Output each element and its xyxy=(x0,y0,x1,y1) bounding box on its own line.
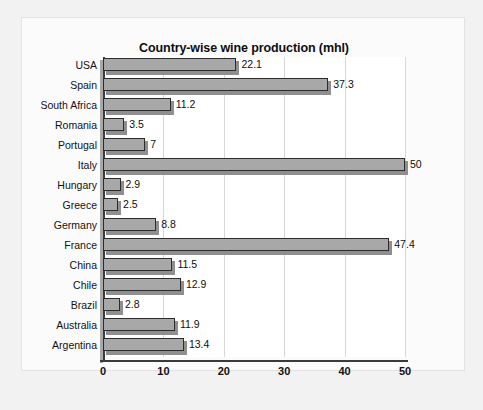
category-label-france: France xyxy=(22,239,97,251)
bar-value-label: 12.9 xyxy=(186,278,206,290)
bar-fill xyxy=(103,258,172,271)
x-tick-40: 40 xyxy=(338,365,350,377)
bar-fill xyxy=(103,298,120,311)
bar-row: Germany8.8 xyxy=(22,217,466,237)
bar-row: Hungary2.9 xyxy=(22,177,466,197)
x-tick-20: 20 xyxy=(218,365,230,377)
bar-china xyxy=(103,258,175,274)
category-label-argentina: Argentina xyxy=(22,339,97,351)
bar-value-label: 3.5 xyxy=(129,118,144,130)
category-label-greece: Greece xyxy=(22,199,97,211)
bar-value-label: 13.4 xyxy=(189,338,209,350)
caption-strip xyxy=(40,385,440,397)
x-axis-tick-labels: 01020304050 xyxy=(103,365,405,381)
bar-fill xyxy=(103,338,184,351)
bar-value-label: 11.2 xyxy=(176,98,196,110)
bar-fill xyxy=(103,238,389,251)
bar-row: Italy50 xyxy=(22,157,466,177)
category-label-spain: Spain xyxy=(22,79,97,91)
bar-fill xyxy=(103,178,121,191)
category-label-south-africa: South Africa xyxy=(22,99,97,111)
category-label-china: China xyxy=(22,259,97,271)
bar-fill xyxy=(103,58,236,71)
bar-greece xyxy=(103,198,121,214)
bar-value-label: 11.5 xyxy=(177,258,197,270)
bar-row: Greece2.5 xyxy=(22,197,466,217)
bar-fill xyxy=(103,218,156,231)
bar-fill xyxy=(103,78,328,91)
bar-value-label: 7 xyxy=(150,138,156,150)
bar-hungary xyxy=(103,178,124,194)
bar-row: Chile12.9 xyxy=(22,277,466,297)
category-label-italy: Italy xyxy=(22,159,97,171)
bar-row: Brazil2.8 xyxy=(22,297,466,317)
bar-value-label: 47.4 xyxy=(394,238,414,250)
x-tick-0: 0 xyxy=(100,365,106,377)
bar-germany xyxy=(103,218,159,234)
bar-value-label: 37.3 xyxy=(333,78,353,90)
bar-brazil xyxy=(103,298,123,314)
bar-fill xyxy=(103,198,118,211)
x-tick-50: 50 xyxy=(399,365,411,377)
category-label-chile: Chile xyxy=(22,279,97,291)
bar-argentina xyxy=(103,338,187,354)
bar-portugal xyxy=(103,138,148,154)
bar-fill xyxy=(103,118,124,131)
bar-italy xyxy=(103,158,408,174)
bar-australia xyxy=(103,318,178,334)
bar-row: South Africa11.2 xyxy=(22,97,466,117)
bar-value-label: 50 xyxy=(410,158,422,170)
bar-rows: USA22.1Spain37.3South Africa11.2Romania3… xyxy=(22,57,466,357)
chart-frame: Country-wise wine production (mhl) USA22… xyxy=(21,17,465,371)
category-label-hungary: Hungary xyxy=(22,179,97,191)
bar-row: France47.4 xyxy=(22,237,466,257)
bar-row: Portugal7 xyxy=(22,137,466,157)
bar-value-label: 22.1 xyxy=(241,58,261,70)
bar-fill xyxy=(103,278,181,291)
bar-chile xyxy=(103,278,184,294)
category-label-germany: Germany xyxy=(22,219,97,231)
bar-row: Romania3.5 xyxy=(22,117,466,137)
x-axis-line xyxy=(100,360,408,362)
bar-row: China11.5 xyxy=(22,257,466,277)
bar-fill xyxy=(103,158,405,171)
category-label-portugal: Portugal xyxy=(22,139,97,151)
category-label-usa: USA xyxy=(22,59,97,71)
bar-usa xyxy=(103,58,239,74)
category-label-brazil: Brazil xyxy=(22,299,97,311)
chart-figure: Country-wise wine production (mhl) USA22… xyxy=(0,0,483,410)
bar-france xyxy=(103,238,392,254)
x-tick-30: 30 xyxy=(278,365,290,377)
bar-romania xyxy=(103,118,127,134)
category-label-australia: Australia xyxy=(22,319,97,331)
bar-row: Spain37.3 xyxy=(22,77,466,97)
bar-value-label: 2.9 xyxy=(126,178,141,190)
bar-value-label: 11.9 xyxy=(180,318,200,330)
x-tick-10: 10 xyxy=(157,365,169,377)
bar-fill xyxy=(103,318,175,331)
bar-value-label: 2.5 xyxy=(123,198,138,210)
bar-row: Australia11.9 xyxy=(22,317,466,337)
bar-fill xyxy=(103,138,145,151)
bar-fill xyxy=(103,98,171,111)
bar-row: Argentina13.4 xyxy=(22,337,466,357)
bar-spain xyxy=(103,78,331,94)
category-label-romania: Romania xyxy=(22,119,97,131)
bar-value-label: 8.8 xyxy=(161,218,176,230)
bar-value-label: 2.8 xyxy=(125,298,140,310)
chart-title: Country-wise wine production (mhl) xyxy=(22,41,466,55)
bar-row: USA22.1 xyxy=(22,57,466,77)
bar-south-africa xyxy=(103,98,174,114)
